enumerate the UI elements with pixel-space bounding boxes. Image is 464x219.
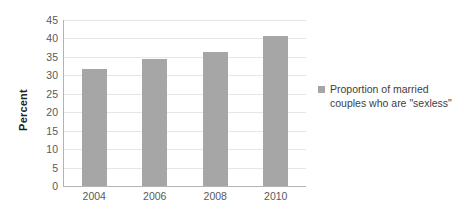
x-axis-tick-label: 2008: [185, 190, 246, 202]
bar-2010[interactable]: [263, 36, 288, 186]
legend-entry-line-2: couples who are "sexless": [330, 96, 452, 110]
bar-group: [64, 20, 306, 186]
chart-legend: Proportion of married couples who are "s…: [318, 82, 460, 110]
bar-slot: [64, 20, 125, 186]
bar-2004[interactable]: [82, 69, 107, 186]
legend-entry-label: Proportion of married couples who are "s…: [330, 82, 452, 110]
y-axis-tick-label: 45: [46, 14, 58, 26]
x-axis-tick-labels: 2004200620082010: [64, 190, 306, 202]
y-axis-tick-label: 20: [46, 106, 58, 118]
y-axis-tick-label: 35: [46, 51, 58, 63]
plot-area: [63, 20, 306, 187]
bar-chart: Percent 454035302520151050 2004200620082…: [0, 0, 464, 219]
gridline: [64, 186, 306, 187]
y-axis-tick-labels: 454035302520151050: [34, 20, 58, 186]
y-axis-tick-label: 25: [46, 88, 58, 100]
y-axis-tick-label: 0: [52, 180, 58, 192]
x-axis-tick-label: 2010: [246, 190, 307, 202]
y-axis-title: Percent: [12, 0, 34, 219]
bar-2006[interactable]: [142, 59, 167, 186]
bar-slot: [125, 20, 186, 186]
y-axis-tick-label: 10: [46, 143, 58, 155]
bar-slot: [246, 20, 307, 186]
y-axis-tick-label: 15: [46, 125, 58, 137]
x-axis-tick-label: 2004: [64, 190, 125, 202]
y-axis-tick-label: 5: [52, 162, 58, 174]
bar-2008[interactable]: [203, 52, 228, 186]
x-axis-tick-label: 2006: [125, 190, 186, 202]
y-axis-title-label: Percent: [17, 89, 29, 131]
legend-entry-line-1: Proportion of married: [330, 82, 452, 96]
y-axis-tick-label: 40: [46, 32, 58, 44]
y-axis-tick-label: 30: [46, 69, 58, 81]
bar-slot: [185, 20, 246, 186]
legend-swatch-icon: [318, 86, 325, 93]
